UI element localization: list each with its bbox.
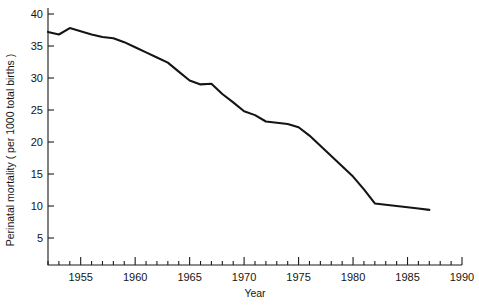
y-tick-label-5: 5 (37, 232, 43, 244)
y-tick-label-40: 40 (31, 8, 43, 20)
x-tick-label-1960: 1960 (123, 271, 147, 283)
y-tick-label-20: 20 (31, 136, 43, 148)
x-axis-tick-labels: 19551960196519701975198019851990 (68, 271, 474, 283)
x-tick-label-1990: 1990 (450, 271, 474, 283)
x-tick-label-1955: 1955 (68, 271, 92, 283)
x-tick-label-1980: 1980 (341, 271, 365, 283)
y-tick-label-35: 35 (31, 40, 43, 52)
y-tick-label-10: 10 (31, 200, 43, 212)
y-tick-label-15: 15 (31, 168, 43, 180)
y-tick-label-25: 25 (31, 104, 43, 116)
y-axis-title: Perinatal mortality ( per 1000 total bir… (4, 54, 16, 247)
x-tick-label-1975: 1975 (286, 271, 310, 283)
perinatal-mortality-line-chart: 510152025303540 195519601965197019751980… (0, 0, 479, 307)
axis-lines (48, 8, 462, 265)
x-axis-title: Year (244, 287, 266, 299)
y-axis-ticks (48, 14, 54, 238)
x-tick-label-1985: 1985 (395, 271, 419, 283)
x-tick-label-1970: 1970 (232, 271, 256, 283)
y-axis-tick-labels: 510152025303540 (31, 8, 43, 244)
chart-page: 510152025303540 195519601965197019751980… (0, 0, 479, 307)
x-tick-label-1965: 1965 (177, 271, 201, 283)
data-series-line (48, 28, 429, 210)
y-tick-label-30: 30 (31, 72, 43, 84)
x-axis-major-ticks (81, 257, 462, 265)
x-axis-minor-ticks (48, 261, 451, 265)
axes-group (48, 8, 462, 265)
